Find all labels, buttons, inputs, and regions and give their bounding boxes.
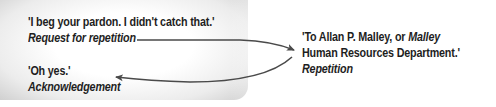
arrows <box>0 0 496 107</box>
arrow-repetition-to-acknowledgement <box>116 57 292 82</box>
arrow-request-to-repetition <box>137 40 294 50</box>
